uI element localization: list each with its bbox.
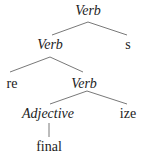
node-verb-l1: Verb xyxy=(37,37,63,53)
edge-root-verb xyxy=(52,22,88,35)
node-adjective: Adjective xyxy=(22,106,74,122)
node-suffix-s: s xyxy=(125,37,130,53)
node-word-final: final xyxy=(36,139,62,155)
node-verb-l2: Verb xyxy=(71,76,97,92)
edge-root-s xyxy=(88,22,127,35)
node-prefix-re: re xyxy=(7,76,18,92)
edge-verb-verb xyxy=(50,57,83,72)
edge-verb-ize xyxy=(87,91,127,104)
edge-verb-re xyxy=(10,57,50,72)
edge-verb-adjective xyxy=(50,91,87,104)
node-root-verb: Verb xyxy=(75,3,101,19)
node-suffix-ize: ize xyxy=(120,106,136,122)
